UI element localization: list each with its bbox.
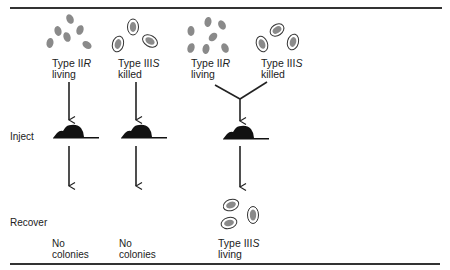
label-col2: Type IIIS killed	[118, 58, 159, 80]
merge-line-left	[215, 85, 240, 99]
label-col1: Type IIR living	[52, 58, 91, 80]
mouse-col2-icon	[121, 125, 167, 139]
label-col3-right: Type IIIS killed	[261, 58, 302, 80]
diagram-graphics	[0, 0, 450, 270]
result-col1: No colonies	[52, 238, 89, 260]
type-iir-cells-col3	[186, 16, 230, 54]
type-iiis-cells-col2	[111, 19, 160, 53]
row-label-inject: Inject	[10, 131, 34, 142]
label-col3-left: Type IIR living	[191, 58, 230, 80]
merge-line-right	[240, 82, 267, 99]
type-iir-cells-col1	[46, 13, 93, 51]
mouse-col3-icon	[223, 126, 269, 140]
result-col2: No colonies	[119, 238, 156, 260]
row-label-recover: Recover	[10, 217, 47, 228]
result-col3: Type IIIS living	[218, 238, 259, 260]
type-iiis-cells-col3	[254, 21, 300, 53]
mouse-col1-icon	[53, 125, 99, 139]
type-iiis-recovered-cells	[220, 197, 259, 230]
